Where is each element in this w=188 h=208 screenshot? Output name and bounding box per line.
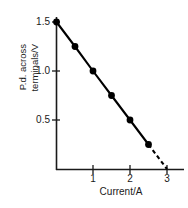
extrapolation-dashed-line xyxy=(149,145,168,170)
data-point-marker xyxy=(145,141,152,148)
y-axis-label-line-2: terminals/V xyxy=(30,44,40,92)
data-point-marker xyxy=(72,43,79,50)
y-axis-label-line-1: P.d. across xyxy=(18,44,28,90)
x-tick-label-3: 3 xyxy=(157,174,177,184)
data-point-marker xyxy=(127,117,134,124)
data-point-marker xyxy=(53,19,60,26)
data-point-marker xyxy=(108,92,115,99)
data-point-marker xyxy=(90,68,97,75)
chart-figure: 1.5 1.0 0.5 1 2 3 P.d. across terminals/… xyxy=(0,0,188,208)
x-tick-label-2: 2 xyxy=(120,174,140,184)
y-axis-label: P.d. across terminals/V xyxy=(8,44,38,154)
x-axis-label: Current/A xyxy=(56,186,186,197)
data-series-line xyxy=(57,22,149,145)
x-tick-label-1: 1 xyxy=(83,174,103,184)
y-tick-label-1.5: 1.5 xyxy=(22,17,50,27)
